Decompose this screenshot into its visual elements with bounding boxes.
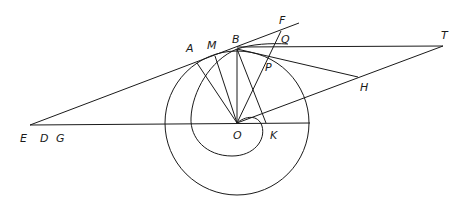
label-D: D [40, 132, 48, 145]
label-K: K [270, 129, 278, 142]
label-G: G [56, 132, 65, 145]
label-T: T [441, 29, 449, 42]
label-A: A [185, 42, 194, 55]
label-O: O [233, 129, 242, 142]
base-line [30, 123, 310, 125]
tangent-line [30, 23, 299, 125]
radius-OM [215, 56, 237, 123]
spiral-diagram: A M B F Q P T H E D G O K [0, 0, 470, 205]
label-M: M [207, 39, 217, 52]
label-H: H [360, 81, 368, 94]
line-BT [237, 46, 443, 47]
line-BK [237, 49, 266, 123]
label-F: F [279, 14, 286, 27]
label-B: B [232, 33, 240, 46]
line-BH [237, 49, 358, 77]
radius-OA [197, 63, 237, 123]
label-Q: Q [281, 33, 290, 46]
label-P: P [265, 61, 272, 74]
label-E: E [20, 132, 27, 145]
